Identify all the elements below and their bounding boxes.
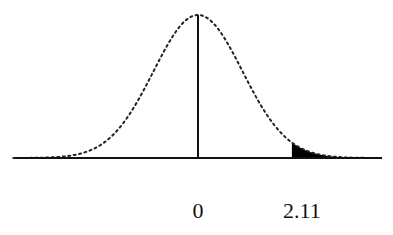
shaded-right-tail — [292, 143, 383, 158]
tick-label-mean: 0 — [193, 198, 204, 224]
tick-label-critical-value: 2.11 — [283, 198, 321, 224]
